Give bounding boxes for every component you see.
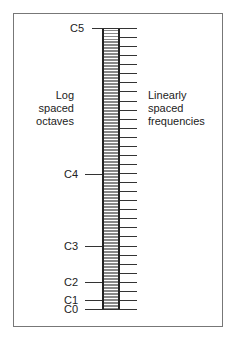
linear-tick — [120, 182, 137, 183]
linear-tick — [120, 264, 137, 265]
octave-label: C3 — [64, 240, 78, 252]
linear-tick — [120, 200, 137, 201]
linear-tick — [120, 55, 137, 56]
linear-tick — [120, 273, 137, 274]
label-line: spaced — [148, 102, 205, 115]
linear-frequencies-label: Linearly spaced frequencies — [148, 89, 205, 128]
linear-tick — [120, 291, 137, 292]
linear-tick — [120, 46, 137, 47]
linear-tick — [120, 155, 137, 156]
linear-tick — [120, 146, 137, 147]
frequency-column — [102, 28, 120, 309]
octave-tick — [85, 282, 102, 283]
label-line: frequencies — [148, 115, 205, 128]
linear-tick — [120, 101, 137, 102]
linear-tick — [120, 82, 137, 83]
linear-tick — [120, 73, 137, 74]
octave-tick — [85, 300, 102, 301]
octave-tick — [85, 309, 137, 310]
octave-tick — [92, 28, 136, 29]
linear-tick — [120, 246, 137, 247]
linear-tick — [120, 191, 137, 192]
label-line: Log — [30, 89, 74, 102]
octave-label: C5 — [70, 22, 84, 34]
octave-tick — [85, 174, 102, 175]
linear-tick — [120, 218, 137, 219]
linear-tick — [120, 236, 137, 237]
linear-tick — [120, 164, 137, 165]
label-line: Linearly — [148, 89, 205, 102]
octave-label: C2 — [64, 276, 78, 288]
linear-tick — [120, 128, 137, 129]
linear-tick — [120, 37, 137, 38]
octave-label: C4 — [64, 168, 78, 180]
linear-tick — [120, 282, 137, 283]
octave-tick — [85, 246, 102, 247]
linear-tick — [120, 110, 137, 111]
octave-label: C0 — [64, 303, 78, 315]
linear-tick — [120, 91, 137, 92]
linear-tick — [120, 119, 137, 120]
log-octaves-label: Log spaced octaves — [30, 89, 74, 128]
label-line: octaves — [30, 115, 74, 128]
linear-tick — [120, 300, 137, 301]
linear-tick — [120, 173, 137, 174]
label-line: spaced — [30, 102, 74, 115]
linear-tick — [120, 209, 137, 210]
linear-tick — [120, 137, 137, 138]
linear-tick — [120, 64, 137, 65]
linear-tick — [120, 227, 137, 228]
linear-tick — [120, 255, 137, 256]
